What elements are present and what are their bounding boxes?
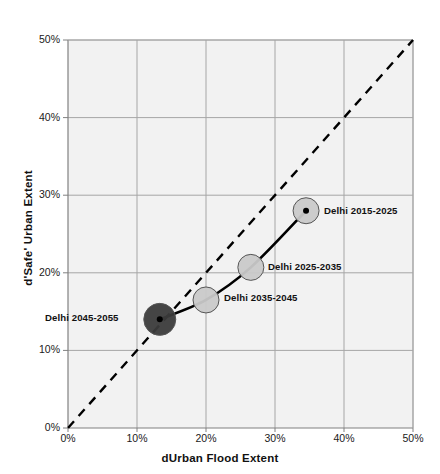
chart-plot-svg xyxy=(0,0,440,474)
point-label-delhi-2015-2025: Delhi 2015-2025 xyxy=(324,205,398,216)
y-tick-label-4: 40% xyxy=(20,111,60,123)
y-tick-label-5: 50% xyxy=(20,33,60,45)
x-tick-label-2: 20% xyxy=(186,432,226,444)
point-label-delhi-2025-2035: Delhi 2025-2035 xyxy=(268,261,342,272)
x-tick-label-5: 50% xyxy=(393,432,433,444)
x-tick-label-4: 40% xyxy=(324,432,364,444)
chart-container: 0% 10% 20% 30% 40% 50% 0% 10% 20% 30% 40… xyxy=(0,0,440,474)
x-tick-label-0: 0% xyxy=(48,432,88,444)
x-tick-label-3: 30% xyxy=(255,432,295,444)
x-tick-label-1: 10% xyxy=(117,432,157,444)
point-label-delhi-2045-2055: Delhi 2045-2055 xyxy=(45,312,119,323)
y-tick-label-1: 10% xyxy=(20,343,60,355)
x-axis-title: dUrban Flood Extent xyxy=(0,452,440,464)
point-label-delhi-2035-2045: Delhi 2035-2045 xyxy=(224,292,298,303)
y-tick-label-0: 0% xyxy=(20,421,60,433)
y-axis-title: d'Safe' Urban Extent xyxy=(22,138,34,318)
